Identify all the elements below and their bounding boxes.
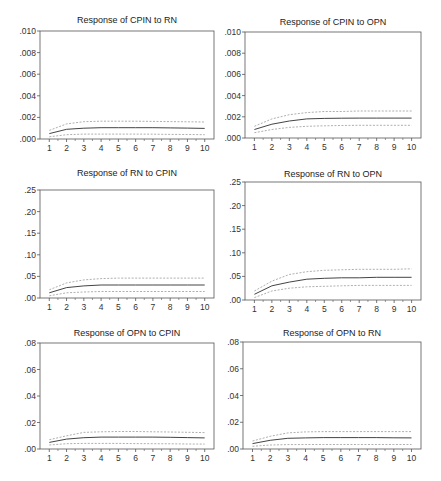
plot-frame: [243, 342, 421, 449]
x-tick-label: 5: [116, 143, 121, 153]
y-tick-label: .008: [224, 48, 241, 58]
chart-title: Response of OPN to CPIN: [74, 328, 181, 338]
panel-opn-to-rn: Response of OPN to RN .00.02.04.06.08123…: [227, 328, 421, 463]
x-tick-label: 2: [64, 143, 69, 153]
x-tick-label: 4: [304, 142, 309, 152]
x-tick-label: 5: [116, 302, 121, 312]
y-tick-label: .15: [229, 224, 241, 234]
y-tick-label: .05: [229, 271, 241, 281]
chart-title: Response of OPN to RN: [283, 328, 381, 338]
x-tick-label: 6: [338, 453, 343, 463]
x-tick-label: 10: [407, 304, 417, 314]
x-tick-label: 8: [374, 304, 379, 314]
x-tick-label: 9: [392, 304, 397, 314]
y-tick-label: .02: [24, 418, 36, 428]
y-tick-label: .25: [24, 185, 36, 195]
x-tick-label: 2: [269, 142, 274, 152]
response-line: [254, 277, 411, 294]
x-tick-label: 9: [185, 143, 190, 153]
confidence-band-line: [49, 278, 204, 290]
y-tick-label: .010: [224, 27, 241, 37]
y-tick-label: .006: [224, 69, 241, 79]
y-tick-label: .08: [24, 338, 36, 348]
x-tick-label: 2: [268, 453, 273, 463]
x-tick-label: 4: [99, 453, 104, 463]
confidence-band-line: [253, 445, 412, 447]
x-tick-label: 8: [168, 453, 173, 463]
y-tick-label: .00: [24, 293, 36, 303]
x-tick-label: 2: [269, 304, 274, 314]
y-tick-label: .00: [227, 444, 239, 454]
panel-rn-to-opn: Response of RN to OPN .00.05.10.15.20.25…: [229, 169, 421, 314]
x-tick-label: 1: [47, 453, 52, 463]
confidence-band-line: [49, 443, 204, 445]
y-tick-label: .006: [19, 69, 36, 79]
x-tick-label: 8: [374, 453, 379, 463]
x-tick-label: 3: [287, 142, 292, 152]
confidence-band-line: [254, 269, 411, 291]
y-tick-label: .15: [24, 228, 36, 238]
x-tick-label: 6: [133, 143, 138, 153]
plot-frame: [245, 32, 421, 138]
x-tick-label: 5: [322, 142, 327, 152]
y-tick-label: .10: [229, 248, 241, 258]
x-tick-label: 8: [374, 142, 379, 152]
response-line: [254, 118, 411, 129]
panel-cpin-to-rn: Response of CPIN to RN .000.002.004.006.…: [19, 15, 214, 153]
response-line: [253, 438, 412, 444]
x-tick-label: 8: [168, 302, 173, 312]
x-tick-label: 7: [357, 304, 362, 314]
y-tick-label: .000: [224, 133, 241, 143]
y-tick-label: .10: [24, 250, 36, 260]
x-tick-label: 10: [407, 142, 417, 152]
y-tick-label: .002: [19, 112, 36, 122]
plot-frame: [40, 190, 214, 298]
x-tick-label: 4: [304, 304, 309, 314]
panel-cpin-to-opn: Response of CPIN to OPN .000.002.004.006…: [224, 17, 421, 152]
x-tick-label: 10: [200, 302, 210, 312]
x-tick-label: 1: [252, 304, 257, 314]
confidence-band-line: [254, 125, 411, 132]
x-tick-label: 6: [339, 142, 344, 152]
x-tick-label: 9: [185, 302, 190, 312]
x-tick-label: 1: [47, 302, 52, 312]
x-tick-label: 7: [357, 142, 362, 152]
y-tick-label: .000: [19, 134, 36, 144]
x-tick-label: 1: [252, 142, 257, 152]
x-tick-label: 7: [151, 453, 156, 463]
x-tick-label: 7: [356, 453, 361, 463]
x-tick-label: 9: [392, 142, 397, 152]
x-tick-label: 6: [133, 302, 138, 312]
x-tick-label: 8: [168, 143, 173, 153]
x-tick-label: 9: [185, 453, 190, 463]
x-tick-label: 6: [133, 453, 138, 463]
response-line: [49, 437, 204, 442]
x-tick-label: 7: [151, 143, 156, 153]
chart-title: Response of CPIN to RN: [77, 15, 177, 25]
chart-title: Response of RN to CPIN: [77, 168, 177, 178]
y-tick-label: .008: [19, 48, 36, 58]
x-tick-label: 3: [285, 453, 290, 463]
confidence-band-line: [49, 292, 204, 296]
x-tick-label: 1: [250, 453, 255, 463]
x-tick-label: 4: [99, 143, 104, 153]
y-tick-label: .004: [19, 91, 36, 101]
panel-opn-to-cpin: Response of OPN to CPIN .00.02.04.06.081…: [24, 328, 214, 463]
x-tick-label: 3: [287, 304, 292, 314]
x-tick-label: 10: [200, 453, 210, 463]
y-tick-label: .004: [224, 91, 241, 101]
panel-rn-to-cpin: Response of RN to CPIN .00.05.10.15.20.2…: [24, 168, 214, 312]
response-line: [49, 128, 204, 134]
x-tick-label: 9: [391, 453, 396, 463]
x-tick-label: 10: [200, 143, 210, 153]
y-tick-label: .010: [19, 26, 36, 36]
x-tick-label: 3: [81, 453, 86, 463]
confidence-band-line: [254, 285, 411, 297]
plot-frame: [245, 182, 421, 300]
x-tick-label: 10: [407, 453, 417, 463]
x-tick-label: 3: [81, 143, 86, 153]
x-tick-label: 6: [339, 304, 344, 314]
x-tick-label: 7: [151, 302, 156, 312]
x-tick-label: 4: [303, 453, 308, 463]
x-tick-label: 2: [64, 302, 69, 312]
